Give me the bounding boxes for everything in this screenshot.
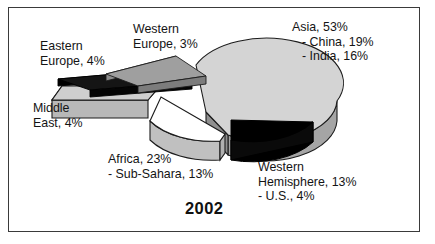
pie-chart-figure: Asia, 53% - China, 19% - India, 16% West… [0, 0, 435, 244]
chart-plot-area: Asia, 53% - China, 19% - India, 16% West… [0, 0, 435, 244]
chart-title-year: 2002 [185, 199, 223, 218]
label-asia-main: Asia, 53% [292, 20, 348, 34]
label-western-hemisphere-sub-us: - U.S., 4% [258, 189, 356, 204]
label-africa-sub-sub-sahara: - Sub-Sahara, 13% [108, 167, 213, 182]
label-eastern-europe-line1: Eastern [40, 39, 83, 53]
label-eastern-europe: Eastern Europe, 4% [40, 39, 105, 68]
label-africa-main: Africa, 23% [108, 152, 171, 166]
label-western-hemisphere: Western Hemisphere, 13% - U.S., 4% [258, 160, 356, 204]
label-eastern-europe-line2: Europe, 4% [40, 54, 105, 69]
label-asia-sub-china: - China, 19% [292, 35, 374, 50]
label-africa: Africa, 23% - Sub-Sahara, 13% [108, 152, 213, 181]
label-middle-east-line1: Middle [33, 101, 70, 115]
label-western-europe: Western Europe, 3% [133, 22, 198, 51]
label-western-europe-line2: Europe, 3% [133, 37, 198, 52]
label-middle-east-line2: East, 4% [33, 116, 83, 131]
label-asia: Asia, 53% - China, 19% - India, 16% [292, 20, 374, 64]
label-western-hemisphere-line1: Western [258, 160, 304, 174]
label-middle-east: Middle East, 4% [33, 101, 83, 130]
label-asia-sub-india: - India, 16% [292, 49, 374, 64]
label-western-hemisphere-line2: Hemisphere, 13% [258, 175, 356, 190]
label-western-europe-line1: Western [133, 22, 179, 36]
